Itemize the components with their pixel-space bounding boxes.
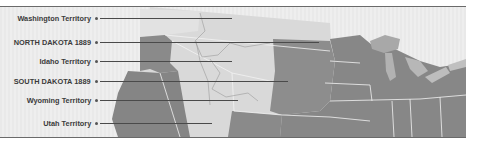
leader-line-south-dakota xyxy=(100,81,288,82)
leader-line-wyoming xyxy=(100,100,238,101)
leader-dot xyxy=(95,122,98,125)
label-row-wyoming: Wyoming Territory xyxy=(0,95,98,105)
label-row-idaho: Idaho Territory xyxy=(0,56,98,66)
leader-line-idaho xyxy=(100,61,232,62)
leader-dot xyxy=(95,41,98,44)
label-washington-territory: Washington Territory xyxy=(17,14,91,23)
label-south-dakota-1889: SOUTH DAKOTA 1889 xyxy=(14,77,91,86)
leader-line-washington xyxy=(100,18,232,19)
leader-dot xyxy=(95,80,98,83)
leader-dot xyxy=(95,60,98,63)
label-row-north-dakota: NORTH DAKOTA 1889 xyxy=(0,37,98,47)
label-north-dakota-1889: NORTH DAKOTA 1889 xyxy=(14,38,91,47)
label-row-south-dakota: SOUTH DAKOTA 1889 xyxy=(0,76,98,86)
label-row-utah: Utah Territory xyxy=(0,118,98,128)
colorado-state xyxy=(228,111,282,137)
label-wyoming-territory: Wyoming Territory xyxy=(26,96,91,105)
label-row-washington: Washington Territory xyxy=(0,13,98,23)
leader-dot xyxy=(95,17,98,20)
leader-line-north-dakota xyxy=(100,42,319,43)
leader-dot xyxy=(95,99,98,102)
leader-line-utah xyxy=(100,123,212,124)
label-utah-territory: Utah Territory xyxy=(43,119,91,128)
label-idaho-territory: Idaho Territory xyxy=(40,57,91,66)
